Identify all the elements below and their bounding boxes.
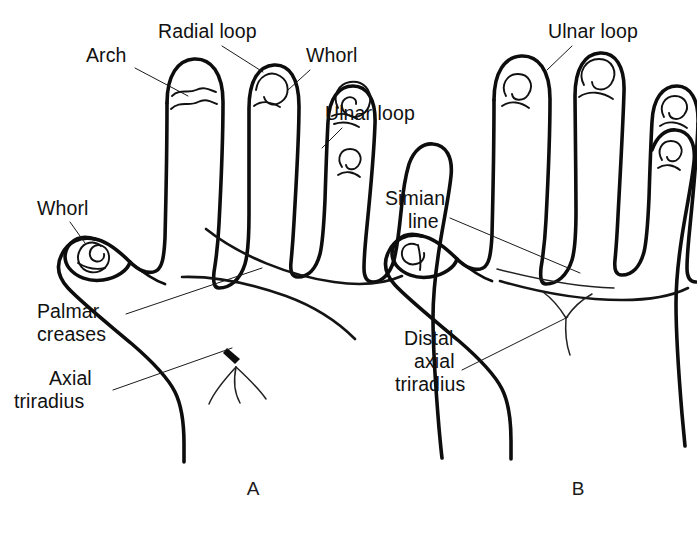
label-axial-triradius-line2: triradius	[14, 390, 84, 412]
label-axial-triradius-line1: Axial	[49, 367, 92, 389]
pattern-ulnar-loop-b-little	[658, 141, 682, 170]
leader-ulnar-loop-b	[547, 46, 572, 70]
labels: Arch Radial loop Whorl Ulnar loop Whorl …	[14, 20, 638, 412]
label-ulnar-loop-a: Ulnar loop	[325, 102, 415, 124]
figure-canvas: Arch Radial loop Whorl Ulnar loop Whorl …	[0, 0, 697, 533]
panel-captions: A B	[247, 478, 585, 499]
pattern-radial-loop-a	[254, 74, 288, 107]
label-whorl-finger: Whorl	[306, 44, 357, 66]
label-distal-axial-triradius-line2: axial	[414, 350, 455, 372]
pattern-ulnar-loop-b-ring	[660, 96, 687, 128]
pattern-ulnar-loop-b-middle	[579, 59, 614, 99]
label-ulnar-loop-b: Ulnar loop	[548, 20, 638, 42]
label-axial-triradius: Axial triradius	[14, 367, 97, 412]
label-distal-axial-triradius: Distal axial triradius	[395, 327, 465, 395]
leader-ulnar-loop-a	[322, 128, 342, 148]
label-palmar-creases-line1: Palmar	[37, 300, 100, 322]
hand-b-distal-axial-triradius	[543, 292, 592, 355]
label-palmar-creases-line2: creases	[37, 323, 106, 345]
label-arch: Arch	[86, 44, 127, 66]
label-palmar-creases: Palmar creases	[37, 300, 106, 345]
leader-arch	[135, 68, 188, 96]
hand-b-leaders	[450, 46, 580, 370]
pattern-ulnar-loop-b-index	[502, 74, 531, 108]
panel-caption-a: A	[247, 478, 260, 499]
hand-b-simian-line	[500, 281, 688, 300]
label-simian-line-line2: line	[408, 210, 439, 232]
hand-a-axial-triradius	[209, 348, 266, 404]
hand-a-leaders	[70, 46, 342, 390]
label-whorl-thumb: Whorl	[37, 197, 88, 219]
label-distal-axial-triradius-line3: triradius	[395, 373, 465, 395]
leader-axial-triradius	[113, 348, 232, 390]
label-simian-line: Simian line	[385, 187, 451, 232]
hand-b	[386, 46, 697, 459]
panel-caption-b: B	[572, 478, 585, 499]
label-radial-loop: Radial loop	[158, 20, 257, 42]
leader-simian-line	[450, 218, 580, 273]
pattern-arch-a	[171, 88, 217, 109]
leader-radial-loop	[222, 46, 263, 72]
dermatoglyphics-figure: Arch Radial loop Whorl Ulnar loop Whorl …	[0, 0, 697, 533]
pattern-ulnar-loop-b-thumb	[402, 244, 424, 270]
label-distal-axial-triradius-line1: Distal	[404, 327, 453, 349]
pattern-whorl-thumb-a	[78, 243, 109, 273]
leader-distal-axial-triradius	[462, 317, 568, 370]
label-simian-line-line1: Simian	[385, 187, 445, 209]
hand-a-distal-palmar-crease	[206, 229, 402, 284]
pattern-ulnar-loop-a	[338, 149, 361, 177]
